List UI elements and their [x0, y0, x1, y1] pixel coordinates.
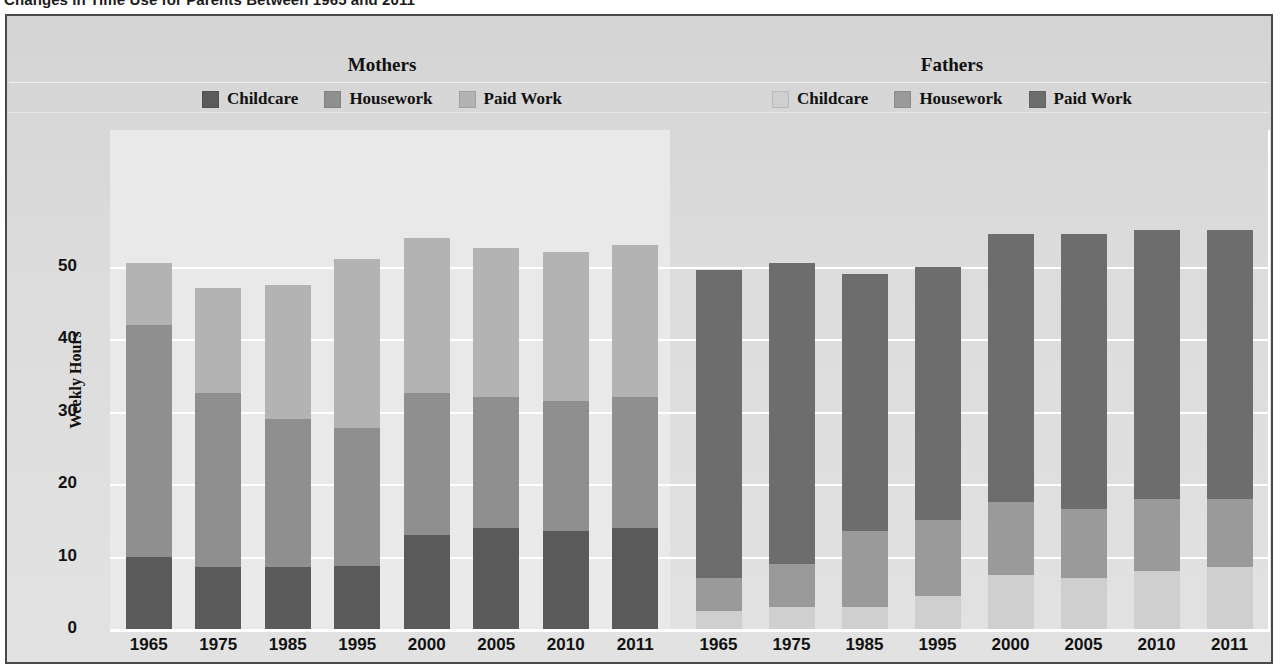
bar-segment-childcare	[195, 567, 241, 629]
x-tick-label-fathers-2000: 2000	[976, 635, 1046, 655]
x-tick-label-mothers-1965: 1965	[114, 635, 184, 655]
bar-segment-childcare	[1207, 567, 1253, 629]
x-tick-label-mothers-1985: 1985	[253, 635, 323, 655]
bar-fathers-1975[interactable]	[769, 128, 815, 629]
legend-item-label: Childcare	[797, 89, 868, 109]
bar-segment-paid-work	[842, 274, 888, 531]
bar-mothers-2011[interactable]	[612, 128, 658, 629]
legend-swatch-icon	[894, 91, 911, 108]
x-tick-label-fathers-1985: 1985	[830, 635, 900, 655]
bar-segment-housework	[265, 419, 311, 568]
bar-mothers-1995[interactable]	[334, 128, 380, 629]
bar-fathers-2011[interactable]	[1207, 128, 1253, 629]
bar-segment-paid-work	[769, 263, 815, 564]
legend-swatch-icon	[1029, 91, 1046, 108]
bar-segment-childcare	[473, 528, 519, 630]
bar-fathers-1965[interactable]	[696, 128, 742, 629]
y-tick-label-50: 50	[31, 256, 77, 276]
bar-mothers-2005[interactable]	[473, 128, 519, 629]
group-header-fathers: Fathers	[672, 54, 1232, 76]
bar-fathers-1985[interactable]	[842, 128, 888, 629]
bar-segment-paid-work	[265, 285, 311, 419]
bar-segment-childcare	[988, 575, 1034, 629]
x-tick-label-mothers-1975: 1975	[183, 635, 253, 655]
legend-item-mothers-paid-work[interactable]: Paid Work	[459, 89, 563, 109]
group-header-mothers: Mothers	[102, 54, 662, 76]
figure-frame: Mothers Fathers ChildcareHouseworkPaid W…	[5, 14, 1273, 664]
bar-segment-childcare	[334, 566, 380, 629]
bar-mothers-2010[interactable]	[543, 128, 589, 629]
bar-segment-housework	[988, 502, 1034, 575]
legend-swatch-icon	[772, 91, 789, 108]
legend-item-mothers-childcare[interactable]: Childcare	[202, 89, 298, 109]
x-tick-label-mothers-2010: 2010	[531, 635, 601, 655]
bar-segment-housework	[842, 531, 888, 607]
legend-divider	[9, 112, 1269, 113]
bar-segment-housework	[334, 428, 380, 566]
legend-fathers: ChildcareHouseworkPaid Work	[672, 86, 1232, 112]
legend-item-fathers-housework[interactable]: Housework	[894, 89, 1002, 109]
legend-item-label: Housework	[919, 89, 1002, 109]
chart-screenshot: Changes in Time Use for Parents Between …	[0, 0, 1281, 671]
bar-segment-paid-work	[404, 238, 450, 394]
x-tick-label-fathers-2011: 2011	[1195, 635, 1265, 655]
bar-segment-childcare	[1134, 571, 1180, 629]
x-tick-label-mothers-2005: 2005	[461, 635, 531, 655]
bar-segment-housework	[696, 578, 742, 611]
x-tick-label-mothers-2000: 2000	[392, 635, 462, 655]
bar-segment-childcare	[543, 531, 589, 629]
bar-segment-paid-work	[126, 263, 172, 325]
y-axis-label: Weekly Hours	[67, 331, 85, 428]
bar-fathers-1995[interactable]	[915, 128, 961, 629]
legend-mothers: ChildcareHouseworkPaid Work	[102, 86, 662, 112]
bar-segment-housework	[769, 564, 815, 608]
bar-mothers-1985[interactable]	[265, 128, 311, 629]
x-tick-label-fathers-1995: 1995	[903, 635, 973, 655]
bar-segment-paid-work	[473, 248, 519, 397]
bar-mothers-1965[interactable]	[126, 128, 172, 629]
bar-segment-childcare	[612, 528, 658, 630]
x-tick-label-mothers-2011: 2011	[600, 635, 670, 655]
legend-item-label: Childcare	[227, 89, 298, 109]
y-tick-label-20: 20	[31, 473, 77, 493]
bar-segment-housework	[195, 393, 241, 567]
plot-right-edge	[1268, 130, 1270, 631]
legend-item-fathers-paid-work[interactable]: Paid Work	[1029, 89, 1133, 109]
bar-mothers-1975[interactable]	[195, 128, 241, 629]
bar-segment-housework	[1207, 499, 1253, 568]
bar-segment-housework	[915, 520, 961, 596]
x-tick-label-fathers-1965: 1965	[684, 635, 754, 655]
legend-item-fathers-childcare[interactable]: Childcare	[772, 89, 868, 109]
bar-mothers-2000[interactable]	[404, 128, 450, 629]
bar-segment-paid-work	[334, 259, 380, 428]
bar-segment-childcare	[126, 557, 172, 630]
bar-segment-housework	[543, 401, 589, 532]
legend-item-mothers-housework[interactable]: Housework	[324, 89, 432, 109]
bar-segment-paid-work	[195, 288, 241, 393]
bar-fathers-2005[interactable]	[1061, 128, 1107, 629]
bar-segment-paid-work	[915, 267, 961, 521]
page-title: Changes in Time Use for Parents Between …	[4, 0, 415, 8]
y-tick-label-0: 0	[31, 618, 77, 638]
bar-segment-housework	[1134, 499, 1180, 572]
bar-segment-childcare	[842, 607, 888, 629]
x-tick-label-fathers-2005: 2005	[1049, 635, 1119, 655]
bar-segment-paid-work	[1061, 234, 1107, 510]
header-divider	[9, 82, 1269, 83]
bar-segment-housework	[473, 397, 519, 528]
x-tick-label-fathers-1975: 1975	[757, 635, 827, 655]
bar-segment-childcare	[265, 567, 311, 629]
legend-item-label: Housework	[349, 89, 432, 109]
bar-fathers-2000[interactable]	[988, 128, 1034, 629]
bar-segment-childcare	[915, 596, 961, 629]
legend-swatch-icon	[324, 91, 341, 108]
bar-segment-housework	[404, 393, 450, 534]
bar-segment-paid-work	[696, 270, 742, 578]
bar-segment-housework	[612, 397, 658, 528]
bar-fathers-2010[interactable]	[1134, 128, 1180, 629]
plot-area: 01020304050 Weekly Hours 196519751985199…	[110, 130, 1270, 631]
bar-segment-childcare	[769, 607, 815, 629]
x-tick-label-mothers-1995: 1995	[322, 635, 392, 655]
y-tick-label-10: 10	[31, 546, 77, 566]
legend-swatch-icon	[202, 91, 219, 108]
